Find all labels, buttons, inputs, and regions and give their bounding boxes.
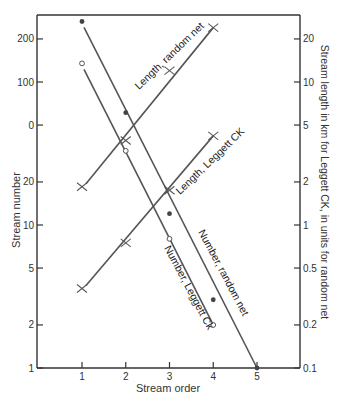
right-tick-label: 10: [303, 77, 315, 88]
left-tick-label: 0: [28, 120, 34, 131]
stream-order-chart: 20010002010521 20105210.50.20.1 12345 St…: [0, 0, 346, 405]
plus-marker: [165, 67, 175, 75]
right-axis-ticks: 20105210.50.20.1: [294, 33, 317, 373]
plus-marker: [77, 284, 87, 292]
left-tick-label: 2: [28, 319, 34, 330]
filled-dot-marker: [80, 19, 85, 24]
right-tick-label: 0.1: [303, 363, 317, 374]
left-tick-label: 10: [23, 220, 35, 231]
x-axis-title: Stream order: [136, 382, 201, 394]
curve-label-number-leggett: Number, Leggett Ck: [162, 243, 217, 332]
series-line: [84, 27, 257, 368]
x-axis-ticks: 12345: [79, 362, 260, 382]
y-axis-title-left: Stream number: [10, 172, 22, 248]
open-circle-marker: [123, 148, 128, 153]
x-tick-label: 3: [167, 371, 173, 382]
right-tick-label: 1: [303, 220, 309, 231]
x-tick-label: 5: [254, 371, 260, 382]
series-lines: [84, 27, 257, 368]
filled-dot-marker: [123, 110, 128, 115]
series-line: [86, 28, 213, 184]
x-tick-label: 4: [210, 371, 216, 382]
right-tick-label: 2: [303, 176, 309, 187]
left-tick-label: 100: [17, 77, 34, 88]
right-tick-label: 0.5: [303, 263, 317, 274]
filled-dot-marker: [211, 297, 216, 302]
y-axis-title-right: Stream length in km for Leggett CK, in u…: [319, 45, 331, 319]
left-tick-label: 200: [17, 33, 34, 44]
filled-dot-marker: [255, 366, 260, 371]
curve-label-length-leggett: Length, Leggett CK: [173, 125, 246, 196]
right-tick-label: 5: [303, 120, 309, 131]
right-tick-label: 20: [303, 33, 315, 44]
curve-label-length-random: Length, random net: [132, 19, 206, 91]
plus-marker: [77, 183, 87, 191]
left-tick-label: 20: [23, 176, 35, 187]
right-tick-label: 0.2: [303, 319, 317, 330]
plus-marker: [208, 24, 218, 32]
x-tick-label: 1: [79, 371, 85, 382]
plus-marker: [208, 132, 218, 140]
left-tick-label: 1: [28, 363, 34, 374]
x-tick-label: 2: [123, 371, 129, 382]
filled-dot-marker: [167, 211, 172, 216]
open-circle-marker: [80, 61, 85, 66]
open-circle-marker: [167, 236, 172, 241]
left-tick-label: 5: [28, 263, 34, 274]
